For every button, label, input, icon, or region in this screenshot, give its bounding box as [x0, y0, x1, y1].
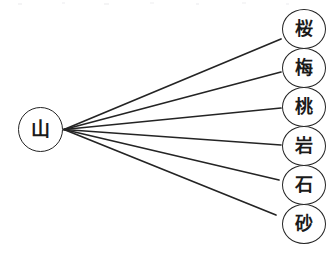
edge-momo	[64, 108, 281, 130]
node-leaf-ume[interactable]: 梅	[282, 48, 326, 88]
node-leaf-label: 石	[295, 176, 313, 194]
node-leaf-sakura[interactable]: 桜	[282, 9, 326, 49]
node-leaf-iwa[interactable]: 岩	[282, 126, 326, 166]
node-root-label: 山	[31, 120, 50, 139]
scan-artifact	[0, 0, 329, 11]
node-leaf-ishi[interactable]: 石	[282, 165, 326, 205]
node-leaf-label: 梅	[295, 59, 313, 77]
node-leaf-label: 砂	[295, 215, 313, 233]
edge-sakura	[64, 39, 281, 130]
node-leaf-label: 桜	[295, 20, 313, 38]
node-root-yama[interactable]: 山	[18, 107, 63, 152]
node-leaf-suna[interactable]: 砂	[282, 204, 326, 244]
node-leaf-label: 桃	[295, 98, 313, 116]
diagram-canvas: 山 桜 梅 桃 岩 石 砂	[0, 0, 329, 257]
edge-ume	[64, 72, 281, 130]
node-leaf-momo[interactable]: 桃	[282, 87, 326, 127]
node-leaf-label: 岩	[295, 137, 313, 155]
